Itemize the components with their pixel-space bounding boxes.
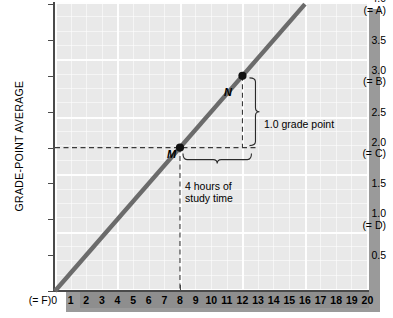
run-annotation-text: 4 hours of study time	[185, 180, 233, 204]
data-point-n[interactable]	[238, 72, 246, 80]
run-annotation-line1: 4 hours of	[185, 180, 232, 192]
run-brace	[183, 154, 251, 164]
rise-brace	[249, 78, 259, 146]
run-annotation-line2: study time	[185, 192, 233, 204]
data-point-m-label: M	[167, 148, 176, 160]
grade-point-average-chart: GRADE-POINT AVERAGE 4.0(= A)3.53.0(= B)2…	[0, 0, 393, 318]
rise-annotation-text: 1.0 grade point	[264, 118, 334, 130]
data-layer	[0, 0, 393, 318]
data-point-n-label: N	[224, 86, 232, 98]
data-point-m[interactable]	[176, 143, 184, 151]
